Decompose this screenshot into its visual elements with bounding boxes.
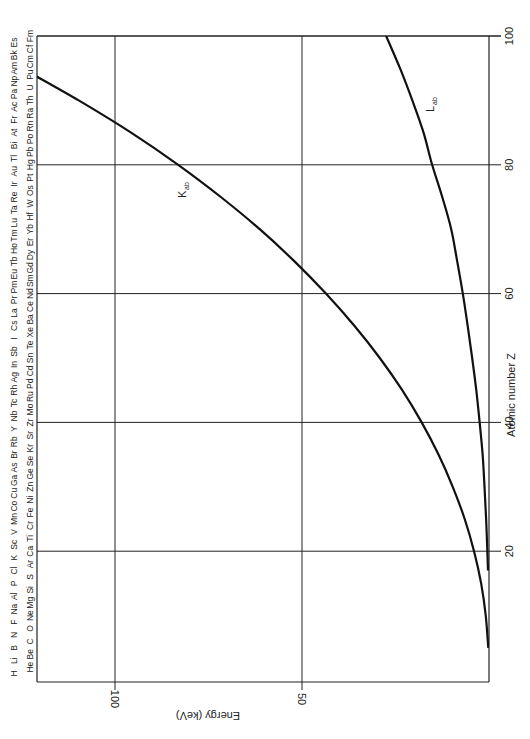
plot-frame [37, 36, 501, 682]
element-label: Ge [25, 468, 35, 480]
element-label: Te [25, 340, 35, 349]
element-label: Y [9, 426, 19, 432]
energy-tick-label: 50 [296, 693, 308, 705]
element-label: K [9, 554, 19, 560]
element-label: Ti [25, 535, 35, 542]
element-label: Eu [9, 269, 19, 280]
element-label: Ru [25, 391, 35, 402]
element-label: Cl [9, 566, 19, 574]
element-label: Hf [25, 211, 35, 220]
l-curve-label: L ab [424, 97, 438, 112]
element-label: Ir [9, 181, 19, 186]
z-axis-title: Atomic number Z [505, 353, 517, 437]
element-label: W [25, 199, 35, 207]
element-label: Mg [25, 597, 35, 609]
element-label: N [9, 632, 19, 638]
element-label: Ar [25, 560, 35, 569]
element-label: Pd [25, 378, 35, 389]
element-label: Dy [25, 249, 35, 260]
element-label: Si [25, 586, 35, 594]
element-label: Tl [9, 155, 19, 162]
element-label: H [9, 670, 19, 676]
element-label: Rn [25, 120, 35, 131]
element-label: Ac [9, 101, 19, 112]
element-label: Mo [25, 403, 35, 415]
element-label: Co [9, 500, 19, 511]
element-label: Rb [9, 436, 19, 447]
element-label: P [9, 580, 19, 586]
element-label: Kr [25, 444, 35, 453]
element-label: Tc [9, 398, 19, 407]
element-label: Sm [25, 274, 35, 287]
element-label: Fr [9, 116, 19, 124]
element-label: Sr [25, 431, 35, 440]
element-label: Pr [9, 296, 19, 305]
element-labels: HLiBNFNaAlPClKScVMnCoCuGaAsBrRbYNbTcRhAg… [9, 30, 35, 677]
element-label: Sn [25, 353, 35, 364]
element-label: La [9, 308, 19, 318]
element-label: Pb [25, 146, 35, 157]
element-label: Mn [9, 513, 19, 525]
element-label: Li [9, 657, 19, 664]
element-label: U [25, 84, 35, 90]
element-label: Am [9, 62, 19, 75]
element-label: Ni [25, 496, 35, 504]
element-label: Cd [25, 365, 35, 376]
element-label: Tm [9, 229, 19, 241]
element-label: Pa [9, 88, 19, 99]
element-label: Bi [9, 142, 19, 150]
element-label: Pm [9, 281, 19, 294]
element-label: Ho [9, 243, 19, 254]
element-label: Cm [25, 55, 35, 68]
z-tick-label: 20 [503, 545, 515, 557]
element-label: Be [25, 649, 35, 660]
element-label: Sb [9, 346, 19, 357]
l-label-sub: ab [431, 97, 438, 105]
element-label: I [9, 337, 19, 339]
energy-tick-label: 100 [109, 690, 121, 708]
element-label: Zn [25, 482, 35, 492]
element-label: Bk [9, 50, 19, 61]
element-label: Ag [9, 372, 19, 383]
z-tick-label: 80 [503, 159, 515, 171]
element-label: C [25, 638, 35, 644]
element-label: F [9, 619, 19, 624]
element-label: Na [9, 603, 19, 614]
element-label: Xe [25, 327, 35, 338]
element-label: Al [9, 592, 19, 600]
element-label: Tb [9, 256, 19, 266]
z-tick-label: 100 [503, 27, 515, 45]
element-label: Ba [25, 314, 35, 325]
absorption-edge-chart: HLiBNFNaAlPClKScVMnCoCuGaAsBrRbYNbTcRhAg… [0, 0, 530, 739]
element-label: Au [9, 166, 19, 177]
element-label: Re [9, 191, 19, 202]
element-label: Nd [25, 288, 35, 299]
element-label: Nb [9, 410, 19, 421]
element-label: Fe [25, 507, 35, 517]
element-label: Br [9, 450, 19, 459]
element-label: Cs [9, 321, 19, 331]
element-label: O [25, 625, 35, 632]
element-label: Pu [25, 69, 35, 80]
element-label: Lu [9, 218, 19, 228]
element-label: Ne [25, 610, 35, 621]
element-label: In [9, 361, 19, 368]
element-label: Ta [9, 205, 19, 214]
grid-lines [37, 36, 501, 690]
element-label: Es [9, 37, 19, 47]
curves [33, 36, 488, 648]
element-label: Sc [9, 539, 19, 550]
element-label: Pt [25, 173, 35, 182]
element-label: Th [25, 95, 35, 105]
l-absorption-curve [386, 36, 488, 571]
element-label: Cf [25, 44, 35, 53]
element-label: Po [25, 134, 35, 145]
element-label: Cr [25, 521, 35, 530]
k-label-sub: ab [183, 182, 190, 190]
element-label: Gd [25, 262, 35, 274]
energy-axis-title: Energy (keV) [176, 710, 240, 722]
element-label: Ce [25, 301, 35, 312]
element-label: As [9, 463, 19, 473]
element-label: Zr [25, 418, 35, 426]
element-label: Fm [25, 30, 35, 42]
